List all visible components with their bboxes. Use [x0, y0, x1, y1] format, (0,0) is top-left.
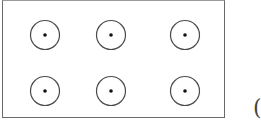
- dotted-circle-r1-c2: [97, 21, 126, 50]
- dotted-circle-r2-c2: [97, 77, 126, 106]
- dotted-circle-r2-c1: [31, 77, 60, 106]
- dotted-circle-r2-c3: [171, 77, 200, 106]
- circle-grid: [0, 0, 261, 127]
- dotted-circle-r1-c1: [31, 21, 60, 50]
- center-dot: [183, 33, 187, 37]
- center-dot: [43, 89, 47, 93]
- center-dot: [109, 89, 113, 93]
- cut-off-label: (: [253, 97, 261, 119]
- dotted-circle-r1-c3: [171, 21, 200, 50]
- center-dot: [109, 33, 113, 37]
- center-dot: [43, 33, 47, 37]
- center-dot: [183, 89, 187, 93]
